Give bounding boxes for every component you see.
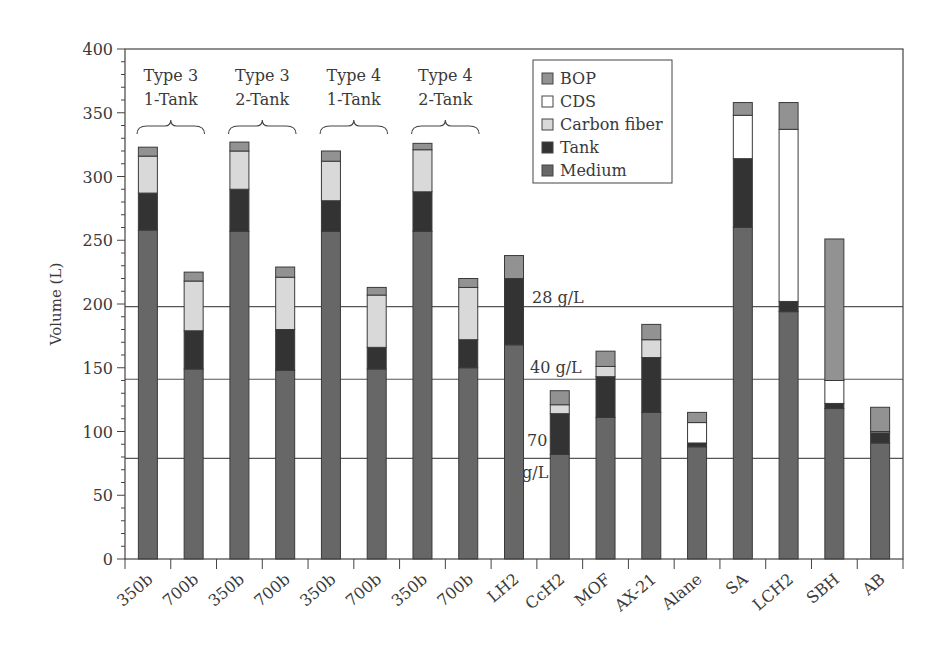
y-tick-label: 50 bbox=[93, 486, 113, 505]
bar-segment-carbon-fiber bbox=[321, 161, 340, 201]
bar-segment-cds bbox=[688, 423, 707, 443]
bar-MOF bbox=[596, 351, 615, 559]
bar-segment-bop bbox=[825, 239, 844, 381]
bar-segment-bop bbox=[413, 143, 432, 149]
x-tick-label: 700b bbox=[342, 570, 385, 611]
legend: BOPCDSCarbon fiberTankMedium bbox=[533, 60, 672, 183]
bar-segment-medium bbox=[413, 231, 432, 559]
bar-350b bbox=[321, 151, 340, 559]
bar-segment-carbon-fiber bbox=[596, 366, 615, 376]
bar-segment-bop bbox=[779, 103, 798, 130]
bar-SBH bbox=[825, 239, 844, 559]
x-tick-label: AB bbox=[858, 570, 889, 600]
bar-segment-tank bbox=[505, 279, 524, 345]
x-tick-label: SBH bbox=[803, 569, 843, 607]
bar-segment-cds bbox=[733, 115, 752, 158]
bar-segment-carbon-fiber bbox=[550, 405, 569, 414]
bar-segment-tank bbox=[596, 377, 615, 418]
bar-LCH2 bbox=[779, 103, 798, 559]
legend-swatch-cds bbox=[542, 96, 553, 107]
bar-segment-carbon-fiber bbox=[367, 295, 386, 347]
bar-segment-carbon-fiber bbox=[184, 281, 203, 331]
x-tick-label: LH2 bbox=[484, 570, 523, 607]
bar-segment-medium bbox=[367, 369, 386, 559]
y-tick-label: 200 bbox=[82, 295, 113, 314]
reference-label-70-line1: 70 bbox=[527, 431, 547, 450]
bar-segment-tank bbox=[138, 193, 157, 230]
bar-350b bbox=[230, 142, 249, 559]
bar-segment-tank bbox=[184, 331, 203, 369]
group-label-line2: 1-Tank bbox=[327, 90, 381, 109]
bar-segment-medium bbox=[550, 454, 569, 559]
group-label-line1: Type 3 bbox=[235, 66, 290, 85]
bar-segment-bop bbox=[871, 407, 890, 431]
bar-350b bbox=[413, 143, 432, 559]
bar-segment-tank bbox=[413, 192, 432, 232]
bar-segment-bop bbox=[230, 142, 249, 151]
bars bbox=[138, 103, 889, 559]
y-tick-label: 250 bbox=[82, 231, 113, 250]
brace-icon bbox=[320, 120, 388, 134]
bar-segment-medium bbox=[642, 412, 661, 559]
bar-segment-medium bbox=[138, 230, 157, 559]
bar-segment-medium bbox=[596, 417, 615, 559]
bar-segment-cds bbox=[779, 129, 798, 301]
bar-segment-tank bbox=[230, 189, 249, 231]
reference-label-40: 40 g/L bbox=[530, 358, 582, 377]
bar-Alane bbox=[688, 412, 707, 559]
y-tick-label: 100 bbox=[82, 423, 113, 442]
bar-segment-medium bbox=[733, 228, 752, 560]
brace-icon bbox=[229, 120, 297, 134]
x-tick-label: 350b bbox=[113, 570, 156, 611]
x-tick-label: 700b bbox=[433, 570, 476, 611]
bar-segment-medium bbox=[871, 443, 890, 559]
legend-label: Carbon fiber bbox=[560, 115, 663, 134]
bar-segment-carbon-fiber bbox=[459, 287, 478, 339]
bar-segment-tank bbox=[276, 330, 295, 371]
bar-segment-carbon-fiber bbox=[642, 340, 661, 358]
bar-segment-bop bbox=[276, 267, 295, 277]
bar-700b bbox=[459, 279, 478, 560]
bar-segment-carbon-fiber bbox=[230, 151, 249, 189]
x-tick-label: Alane bbox=[657, 570, 705, 615]
reference-label-70-line2: g/L bbox=[522, 463, 549, 482]
bar-segment-bop bbox=[459, 279, 478, 288]
legend-label: Tank bbox=[560, 138, 599, 157]
legend-swatch-carbon-fiber bbox=[542, 119, 553, 130]
bar-segment-tank bbox=[321, 201, 340, 232]
bar-segment-tank bbox=[779, 301, 798, 311]
stacked-bar-chart: 28 g/L40 g/L70g/L 0501001502002503003504… bbox=[0, 0, 952, 653]
x-tick-label: AX-21 bbox=[610, 570, 660, 616]
bar-segment-tank bbox=[642, 358, 661, 413]
y-tick-label: 400 bbox=[82, 40, 113, 59]
bar-segment-medium bbox=[459, 368, 478, 559]
bar-segment-medium bbox=[779, 312, 798, 559]
legend-label: BOP bbox=[560, 69, 596, 88]
bar-segment-bop bbox=[550, 391, 569, 405]
x-tick-label: 350b bbox=[388, 570, 431, 611]
legend-swatch-tank bbox=[542, 142, 553, 153]
bar-segment-tank bbox=[459, 340, 478, 368]
bar-segment-bop bbox=[596, 351, 615, 366]
bar-segment-tank bbox=[688, 443, 707, 447]
bar-segment-tank bbox=[825, 403, 844, 408]
group-label-line2: 1-Tank bbox=[144, 90, 198, 109]
bar-LH2 bbox=[505, 256, 524, 559]
bar-segment-tank bbox=[367, 347, 386, 369]
x-tick-label: 700b bbox=[250, 570, 293, 611]
legend-swatch-medium bbox=[542, 165, 553, 176]
bar-segment-carbon-fiber bbox=[138, 156, 157, 193]
x-tick-label: 700b bbox=[159, 570, 202, 611]
x-tick-label: 350b bbox=[205, 570, 248, 611]
x-tick-label: 350b bbox=[296, 570, 339, 611]
y-tick-label: 300 bbox=[82, 168, 113, 187]
bar-segment-bop bbox=[642, 324, 661, 339]
bar-segment-tank bbox=[871, 433, 890, 443]
bar-AB bbox=[871, 407, 890, 559]
group-label-line1: Type 3 bbox=[143, 66, 198, 85]
bar-segment-medium bbox=[505, 345, 524, 559]
bar-segment-tank bbox=[550, 414, 569, 455]
bar-segment-medium bbox=[230, 231, 249, 559]
y-tick-label: 150 bbox=[82, 359, 113, 378]
bar-segment-bop bbox=[367, 287, 386, 295]
